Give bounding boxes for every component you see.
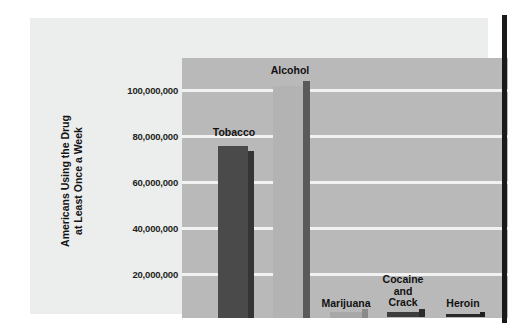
bar-label-tobacco: Tobacco (198, 127, 270, 139)
y-tick-label: 100,000,000 (86, 85, 178, 96)
bar-label-marijuana: Marijuana (314, 298, 378, 310)
bar-marijuana (330, 312, 362, 318)
bar-alcohol-face (273, 86, 303, 318)
y-axis-ticks: 100,000,000 80,000,000 60,000,000 40,000… (82, 58, 178, 318)
chart-page: Americans Using the Drug at Least Once a… (0, 0, 513, 331)
bar-tobacco-face (218, 146, 248, 318)
bar-label-alcohol: Alcohol (252, 65, 328, 77)
y-tick-label: 20,000,000 (86, 269, 178, 280)
bar-label-cocaine-and-crack: Cocaine and Crack (372, 274, 434, 309)
figure-panel: Americans Using the Drug at Least Once a… (30, 18, 488, 314)
y-axis-title-line1: Americans Using the Drug (59, 115, 71, 247)
right-vertical-rule (502, 15, 507, 323)
bar-heroin (446, 314, 480, 317)
bar-marijuana-side (362, 309, 368, 318)
y-tick-label: 80,000,000 (86, 131, 178, 142)
bar-heroin-side (480, 312, 485, 317)
bar-tobacco-side (248, 151, 254, 318)
bar-label-heroin: Heroin (434, 298, 492, 310)
gridline-100m (182, 89, 508, 92)
y-tick-label: 40,000,000 (86, 223, 178, 234)
bar-heroin-face (446, 314, 480, 317)
bar-cocaine-and-crack-side (419, 309, 425, 317)
plot-area: Tobacco Alcohol Marijuana Cocaine and Cr… (182, 58, 508, 318)
bar-tobacco (218, 146, 248, 318)
bar-alcohol (273, 86, 303, 318)
bar-alcohol-side (303, 81, 310, 318)
bar-cocaine-and-crack (387, 312, 419, 317)
y-tick-label: 60,000,000 (86, 177, 178, 188)
bar-marijuana-face (330, 312, 362, 318)
bar-cocaine-and-crack-face (387, 312, 419, 317)
